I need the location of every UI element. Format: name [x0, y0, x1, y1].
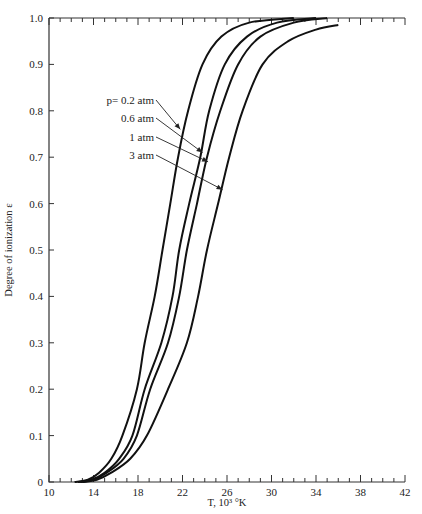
y-tick-label: 0.2 [29, 383, 43, 395]
annotation-arrow [156, 155, 223, 190]
x-tick-label: 34 [311, 486, 323, 498]
annotations: p= 0.2 atm0.6 atm1 atm3 atm [107, 94, 223, 190]
x-tick-label: 30 [266, 486, 278, 498]
x-tick-label: 42 [400, 486, 411, 498]
curves [75, 18, 339, 482]
series-line-2 [78, 18, 316, 482]
axis-frame [49, 18, 405, 482]
x-tick-label: 18 [133, 486, 145, 498]
y-tick-label: 0.5 [29, 244, 43, 256]
y-tick-label: 0.4 [29, 290, 43, 302]
y-tick-label: 0.6 [29, 198, 43, 210]
y-tick-label: 0.1 [29, 430, 43, 442]
y-tick-label: 0.9 [29, 58, 43, 70]
series-line-1 [75, 18, 294, 482]
x-axis-label: T, 10³ °K [208, 497, 247, 508]
y-tick-label: 1.0 [29, 12, 43, 24]
ionization-chart: 10141822263034384200.10.20.30.40.50.60.7… [0, 0, 422, 514]
y-tick-label: 0 [38, 476, 44, 488]
annotation-label: 3 atm [129, 149, 154, 161]
annotation-label: p= 0.2 atm [107, 94, 155, 106]
axes: 10141822263034384200.10.20.30.40.50.60.7… [29, 12, 410, 498]
series-line-3 [80, 18, 327, 482]
y-tick-label: 0.8 [29, 105, 43, 117]
x-tick-label: 38 [355, 486, 367, 498]
x-tick-label: 22 [177, 486, 188, 498]
x-tick-label: 14 [88, 486, 100, 498]
y-tick-label: 0.7 [29, 151, 43, 163]
annotation-label: 0.6 atm [121, 112, 154, 124]
y-tick-label: 0.3 [29, 337, 43, 349]
y-axis-label: Degree of ionization ε [3, 203, 14, 297]
annotation-label: 1 atm [129, 131, 154, 143]
x-tick-label: 10 [44, 486, 56, 498]
